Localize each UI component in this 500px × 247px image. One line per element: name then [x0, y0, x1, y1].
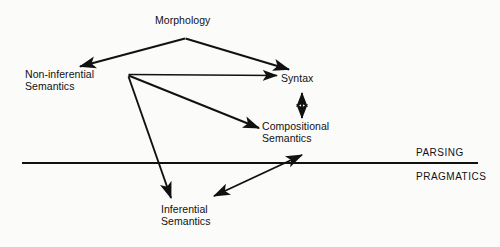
- edge-inferential-compositional-bidirectional: [214, 155, 302, 196]
- zone-label-pragmatics: PRAGMATICS: [416, 171, 486, 182]
- node-compositional-semantics: Compositional Semantics: [262, 120, 329, 144]
- edge-non-inferential-to-inferential: [129, 77, 172, 199]
- node-syntax-line1: Syntax: [281, 72, 313, 84]
- node-morphology: Morphology: [155, 14, 210, 26]
- diagram-arrows-layer: [0, 0, 500, 247]
- node-inferential-semantics: Inferential Semantics: [161, 203, 210, 227]
- edge-morphology-to-syntax: [186, 39, 290, 70]
- edge-non-inferential-to-syntax: [129, 75, 278, 76]
- node-compositional-semantics-line2: Semantics: [262, 132, 329, 144]
- node-non-inferential-semantics-line2: Semantics: [25, 80, 94, 92]
- node-non-inferential-semantics: Non-inferential Semantics: [25, 68, 94, 92]
- node-non-inferential-semantics-line1: Non-inferential: [25, 68, 94, 80]
- node-morphology-line1: Morphology: [155, 14, 210, 26]
- node-inferential-semantics-line2: Semantics: [161, 215, 210, 227]
- zone-label-parsing: PARSING: [416, 147, 464, 158]
- edge-morphology-to-non-inferential: [80, 39, 185, 67]
- diagram-canvas: Morphology Non-inferential Semantics Syn…: [0, 0, 500, 247]
- edge-non-inferential-to-compositional: [129, 76, 260, 129]
- node-compositional-semantics-line1: Compositional: [262, 120, 329, 132]
- node-inferential-semantics-line1: Inferential: [161, 203, 210, 215]
- node-syntax: Syntax: [281, 72, 313, 84]
